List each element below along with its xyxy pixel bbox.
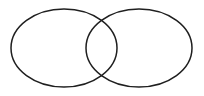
venn-diagram-svg (0, 0, 204, 96)
right-set-ellipse (86, 9, 192, 87)
venn-diagram (0, 0, 204, 96)
